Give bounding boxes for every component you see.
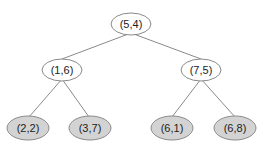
- tree-edge: [201, 79, 235, 117]
- node-label: (6,8): [224, 122, 247, 134]
- leaf-node: (6,8): [214, 116, 256, 140]
- tree-edge: [172, 79, 201, 117]
- internal-node: (1,6): [42, 59, 82, 81]
- internal-node: (5,4): [111, 13, 151, 35]
- tree-edge: [29, 79, 62, 117]
- leaf-node: (3,7): [69, 116, 111, 140]
- leaf-node: (6,1): [151, 116, 193, 140]
- internal-node: (7,5): [181, 59, 221, 81]
- node-label: (3,7): [79, 122, 102, 134]
- tree-nodes: (5,4)(1,6)(7,5)(2,2)(3,7)(6,1)(6,8): [7, 13, 256, 140]
- node-label: (7,5): [190, 64, 213, 76]
- tree-edge: [131, 33, 201, 59]
- kd-tree-diagram: (5,4)(1,6)(7,5)(2,2)(3,7)(6,1)(6,8): [0, 0, 263, 151]
- tree-edge: [62, 79, 89, 117]
- node-label: (5,4): [120, 18, 143, 30]
- node-label: (1,6): [51, 64, 74, 76]
- node-label: (6,1): [161, 122, 184, 134]
- leaf-node: (2,2): [7, 116, 49, 140]
- tree-edge: [62, 33, 131, 59]
- node-label: (2,2): [17, 122, 40, 134]
